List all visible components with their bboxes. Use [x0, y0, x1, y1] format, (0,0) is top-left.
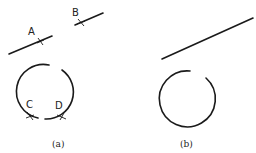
circle-arc-right — [45, 70, 73, 119]
point-c-label: C — [26, 99, 33, 110]
point-b-label: B — [72, 7, 79, 18]
point-a-label: A — [28, 26, 35, 37]
line-segment — [162, 18, 253, 59]
caption-a: (a) — [52, 139, 64, 149]
panel-a: A B C D (a) — [9, 7, 103, 149]
broken-circle — [159, 71, 215, 127]
line-segment-a — [9, 36, 52, 54]
figure: A B C D (a) — [0, 0, 256, 153]
figure-canvas: A B C D (a) — [0, 0, 256, 153]
point-d-label: D — [55, 100, 63, 111]
caption-b: (b) — [180, 139, 193, 149]
panel-b: (b) — [159, 18, 253, 149]
point-b-mark — [77, 19, 85, 26]
